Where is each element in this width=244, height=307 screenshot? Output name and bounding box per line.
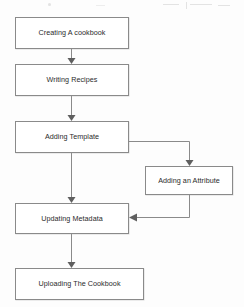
scan-artifact bbox=[186, 2, 187, 9]
flow-node-label: Writing Recipes bbox=[47, 76, 98, 84]
edge-template-to-attribute bbox=[129, 142, 194, 167]
scan-artifact bbox=[163, 4, 179, 5]
flow-node-adding-attribute[interactable]: Adding an Attribute bbox=[145, 166, 233, 195]
flow-node-writing-recipes[interactable]: Writing Recipes bbox=[15, 64, 129, 96]
flow-node-updating-metadata[interactable]: Updating Metadata bbox=[15, 203, 129, 234]
flowchart-canvas: Creating A cookbook Writing Recipes Addi… bbox=[0, 0, 244, 307]
edge-template-to-metadata bbox=[68, 153, 76, 203]
edge-creating-to-writing bbox=[68, 49, 76, 64]
scan-artifact bbox=[218, 5, 230, 6]
edge-attribute-to-metadata bbox=[129, 195, 190, 222]
flow-node-label: Uploading The Cookbook bbox=[38, 280, 120, 288]
flow-node-label: Adding Template bbox=[45, 133, 99, 141]
scan-artifact bbox=[190, 4, 212, 5]
flow-node-uploading-cookbook[interactable]: Uploading The Cookbook bbox=[15, 268, 144, 300]
flow-node-adding-template[interactable]: Adding Template bbox=[15, 121, 129, 153]
edge-writing-to-template bbox=[68, 96, 76, 121]
flow-node-label: Creating A cookbook bbox=[39, 29, 106, 37]
scan-artifact bbox=[48, 3, 51, 6]
flow-node-label: Adding an Attribute bbox=[158, 176, 220, 184]
edge-metadata-to-uploading bbox=[68, 234, 76, 268]
flow-node-creating-cookbook[interactable]: Creating A cookbook bbox=[15, 17, 129, 49]
flow-node-label: Updating Metadata bbox=[41, 214, 103, 222]
scan-artifact bbox=[96, 5, 105, 6]
